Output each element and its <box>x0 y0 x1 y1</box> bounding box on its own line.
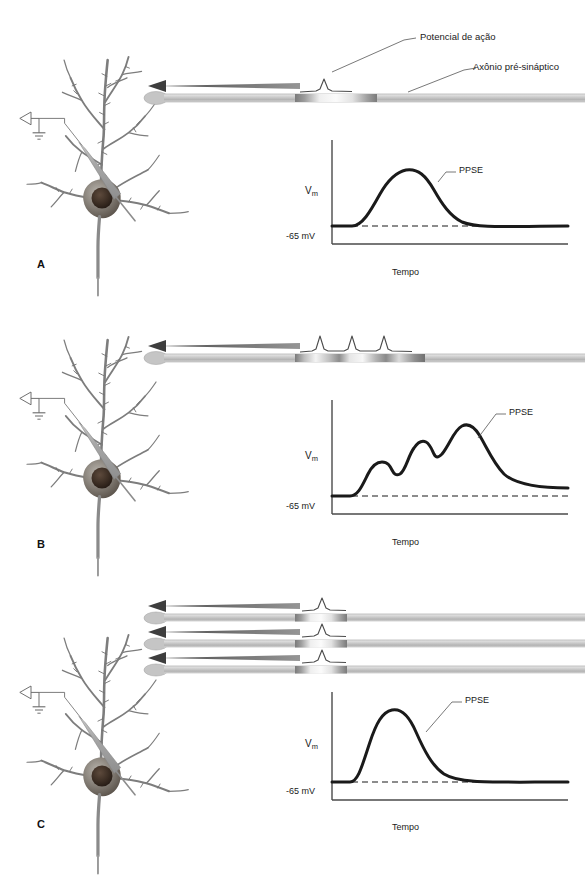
epsp-curve-b <box>332 425 568 496</box>
presynaptic-axon-c3 <box>140 650 585 678</box>
recording-electrode-a <box>4 104 154 224</box>
panel-label-a: A <box>37 258 45 270</box>
panel-label-b: B <box>37 538 45 550</box>
panel-a: Potencial de ação Axônio pré-sináptico P… <box>0 0 585 290</box>
time-axis-label-c: Tempo <box>392 822 419 832</box>
recording-electrode-c <box>4 678 154 798</box>
presynaptic-axon-b <box>140 330 585 372</box>
epsp-curve-c <box>332 710 568 782</box>
vm-letter-a: V <box>305 185 312 196</box>
presynaptic-axon-label: Axônio pré-sináptico <box>473 61 559 72</box>
panel-b: PPSE Vm -65 mV Tempo B <box>0 290 585 580</box>
baseline-label-a: -65 mV <box>286 231 315 241</box>
epsp-graph-a <box>300 138 570 258</box>
vm-subscript-c: m <box>312 742 318 751</box>
epsp-graph-c <box>300 690 570 815</box>
vm-axis-label-c: Vm <box>305 738 318 751</box>
vm-subscript-b: m <box>312 454 318 463</box>
presynaptic-axon-c1 <box>140 598 585 626</box>
epsp-curve-a <box>332 170 568 227</box>
baseline-label-c: -65 mV <box>286 786 315 796</box>
panel-label-c: C <box>37 818 45 830</box>
vm-letter-b: V <box>305 450 312 461</box>
panel-c: PPSE Vm -65 mV Tempo C <box>0 580 585 842</box>
ppse-label-b: PPSE <box>509 407 533 417</box>
recording-electrode-b <box>4 384 154 504</box>
ppse-label-a: PPSE <box>459 165 483 175</box>
time-axis-label-b: Tempo <box>392 537 419 547</box>
presynaptic-axon-c2 <box>140 624 585 652</box>
epsp-graph-b <box>300 398 570 528</box>
time-axis-label-a: Tempo <box>392 267 419 277</box>
vm-subscript-a: m <box>312 189 318 198</box>
vm-axis-label-a: Vm <box>305 185 318 198</box>
vm-letter-c: V <box>305 738 312 749</box>
vm-axis-label-b: Vm <box>305 450 318 463</box>
action-potential-label: Potencial de ação <box>420 31 496 42</box>
ppse-label-c: PPSE <box>465 695 489 705</box>
baseline-label-b: -65 mV <box>286 501 315 511</box>
